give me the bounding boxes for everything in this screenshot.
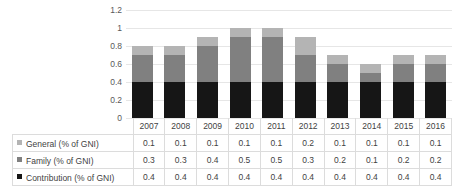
bar-segment[interactable] [327,82,348,118]
bar-segment[interactable] [197,37,218,46]
plot-wrapper: 00.20.40.60.811.2 [0,0,460,123]
table-column-header-year: 2009 [197,118,229,135]
table-cell-value: 0.1 [356,152,388,169]
table-cell-value: 0.1 [324,135,356,152]
table-cell-value: 0.1 [388,135,420,152]
stacked-bar[interactable] [425,55,446,118]
bar-slot [354,10,387,118]
legend-swatch-icon [17,174,22,179]
bar-segment[interactable] [393,64,414,82]
y-axis-tick-label: 1.2 [96,6,122,15]
bar-segment[interactable] [230,82,251,118]
table-cell-value: 0.1 [420,135,452,152]
table-cell-value: 0.4 [197,152,229,169]
bar-segment[interactable] [132,46,153,55]
table-cell-value: 0.4 [165,169,197,186]
bar-segment[interactable] [360,64,381,73]
bar-segment[interactable] [393,55,414,64]
table-cell-value: 0.3 [292,152,324,169]
stacked-bar[interactable] [197,37,218,118]
bar-slot [256,10,289,118]
stacked-bar[interactable] [132,46,153,118]
table-row: Contribution (% of GNI)0.40.40.40.40.40.… [13,169,452,186]
table-column-header-year: 2013 [324,118,356,135]
bar-segment[interactable] [295,55,316,82]
bars-layer [126,10,452,118]
bar-slot [419,10,452,118]
table-column-header-year: 2016 [420,118,452,135]
table-cell-value: 0.4 [420,169,452,186]
table-cell-value: 0.3 [133,152,165,169]
table-header-row: 2007200820092010201120122013201420152016 [13,118,452,135]
bar-segment[interactable] [360,73,381,82]
table-cell-value: 0.4 [260,169,292,186]
legend-label: General (% of GNI) [26,138,99,148]
bar-segment[interactable] [425,82,446,118]
table-cell-value: 0.1 [197,135,229,152]
stacked-bar[interactable] [230,28,251,118]
table-cell-value: 0.1 [260,135,292,152]
bar-segment[interactable] [230,37,251,82]
table-corner-cell [13,118,134,135]
stacked-bar[interactable] [360,64,381,118]
bar-segment[interactable] [197,82,218,118]
legend-label: Family (% of GNI) [26,155,94,165]
chart-data-table: 2007200820092010201120122013201420152016… [12,118,452,186]
stacked-bar[interactable] [262,28,283,118]
legend-item[interactable]: Family (% of GNI) [13,152,134,169]
table-cell-value: 0.2 [324,152,356,169]
bar-segment[interactable] [197,46,218,82]
table-cell-value: 0.1 [229,135,261,152]
bar-slot [289,10,322,118]
bar-segment[interactable] [327,55,348,64]
stacked-bar[interactable] [295,37,316,118]
bar-segment[interactable] [164,55,185,82]
table-column-header-year: 2012 [292,118,324,135]
bar-segment[interactable] [295,82,316,118]
stacked-bar-chart-with-data-table: 00.20.40.60.811.2 2007200820092010201120… [0,0,460,193]
table-cell-value: 0.5 [229,152,261,169]
bar-segment[interactable] [393,82,414,118]
bar-segment[interactable] [262,82,283,118]
table-cell-value: 0.2 [388,152,420,169]
y-axis-tick-label: 1 [96,24,122,33]
legend-swatch-icon [17,140,22,145]
bar-segment[interactable] [295,37,316,55]
bar-slot [322,10,355,118]
stacked-bar[interactable] [164,46,185,118]
y-axis-tick-label: 0.4 [96,78,122,87]
bar-segment[interactable] [164,82,185,118]
bar-segment[interactable] [360,82,381,118]
y-axis: 00.20.40.60.811.2 [96,0,122,118]
table-column-header-year: 2010 [229,118,261,135]
table-column-header-year: 2015 [388,118,420,135]
bar-segment[interactable] [164,46,185,55]
table-cell-value: 0.4 [292,169,324,186]
table-cell-value: 0.5 [260,152,292,169]
legend-label: Contribution (% of GNI) [26,172,114,182]
table-cell-value: 0.1 [165,135,197,152]
table-column-header-year: 2011 [260,118,292,135]
bar-segment[interactable] [262,28,283,37]
bar-segment[interactable] [230,28,251,37]
y-axis-tick-label: 0.8 [96,42,122,51]
bar-segment[interactable] [262,37,283,82]
y-axis-tick-label: 0.6 [96,60,122,69]
legend-item[interactable]: General (% of GNI) [13,135,134,152]
table-cell-value: 0.4 [388,169,420,186]
stacked-bar[interactable] [327,55,348,118]
bar-segment[interactable] [132,82,153,118]
bar-segment[interactable] [425,64,446,82]
legend-item[interactable]: Contribution (% of GNI) [13,169,134,186]
bar-slot [191,10,224,118]
bar-segment[interactable] [327,64,348,82]
table-column-header-year: 2007 [133,118,165,135]
bar-slot [224,10,257,118]
stacked-bar[interactable] [393,55,414,118]
table-column-header-year: 2014 [356,118,388,135]
table-column-header-year: 2008 [165,118,197,135]
bar-segment[interactable] [425,55,446,64]
table-cell-value: 0.4 [133,169,165,186]
bar-segment[interactable] [132,55,153,82]
table-cell-value: 0.4 [356,169,388,186]
